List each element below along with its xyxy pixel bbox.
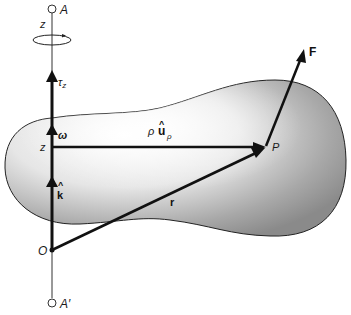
label-A: A: [59, 3, 68, 17]
force-arrowhead-icon: [296, 49, 306, 63]
label-P: P: [272, 141, 280, 153]
label-omega: ω: [58, 129, 67, 141]
rigid-body-rotation-diagram: A A′ z τz ω z ^ k ρ ^ u ρ r O P F: [0, 0, 351, 315]
label-F: F: [309, 45, 316, 59]
svg-text:ρ: ρ: [166, 132, 172, 141]
label-z-axis: z: [39, 18, 46, 30]
label-O: O: [38, 244, 47, 258]
origin-point: [50, 248, 55, 253]
point-A-prime-marker: [48, 299, 56, 307]
label-torque: τz: [58, 76, 66, 90]
label-z-point: z: [39, 141, 46, 153]
label-A-prime: A′: [59, 297, 71, 311]
torque-arrowhead-icon: [46, 70, 58, 82]
label-k-hat: k: [57, 189, 64, 201]
point-A-marker: [48, 5, 56, 13]
label-r: r: [170, 196, 175, 208]
svg-text:ρ: ρ: [147, 125, 154, 137]
svg-text:u: u: [158, 124, 165, 138]
